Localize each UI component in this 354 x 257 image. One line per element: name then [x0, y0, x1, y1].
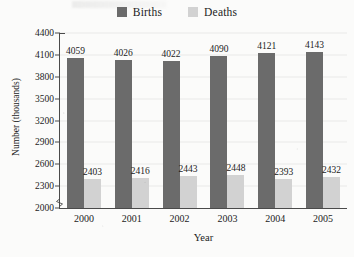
- chart-plot-area: Number (thousands) 200023002600290032003…: [0, 0, 354, 257]
- bar-value-label: 2448: [226, 163, 245, 173]
- y-axis-tick-label: 2300: [35, 181, 54, 191]
- x-axis-tick-labels: 200020012002200320042005: [60, 213, 347, 229]
- x-axis-tick-label: 2005: [313, 213, 333, 224]
- bar-group: 40902448: [210, 33, 244, 208]
- bar-group: 40592403: [67, 33, 101, 208]
- y-axis-tick-label: 2600: [35, 159, 54, 169]
- bar-births-2001: 4026: [115, 60, 132, 208]
- bar-births-2003: 4090: [210, 56, 227, 208]
- bar-deaths-2005: 2432: [323, 177, 340, 209]
- bar-deaths-2002: 2443: [180, 176, 197, 208]
- y-axis-tick-label: 3800: [35, 72, 54, 82]
- y-axis-title: Number (thousands): [11, 52, 21, 182]
- bar-group: 40222443: [163, 33, 197, 208]
- bar-value-label: 2403: [83, 167, 102, 177]
- bar-births-2000: 4059: [67, 58, 84, 208]
- y-axis-tick-label: 2900: [35, 137, 54, 147]
- y-axis-tick-label: 3200: [35, 116, 54, 126]
- bar-value-label: 4090: [209, 44, 228, 54]
- x-axis-tick-label: 2000: [74, 213, 94, 224]
- chart-bars: 4059240340262416402224434090244841212393…: [60, 33, 347, 208]
- bar-value-label: 2443: [179, 164, 198, 174]
- bar-value-label: 4121: [257, 41, 276, 51]
- bar-value-label: 2432: [322, 165, 341, 175]
- bar-births-2005: 4143: [306, 52, 323, 208]
- bar-value-label: 4026: [114, 48, 133, 58]
- x-axis-line: [59, 208, 347, 209]
- y-axis-tick-label: 4400: [35, 28, 54, 38]
- bar-deaths-2001: 2416: [132, 178, 149, 208]
- x-axis-tick-label: 2001: [122, 213, 142, 224]
- bar-deaths-2000: 2403: [84, 179, 101, 208]
- bar-value-label: 4022: [162, 49, 181, 59]
- x-axis-title: Year: [60, 232, 347, 243]
- bar-group: 40262416: [115, 33, 149, 208]
- y-axis-tick-label: 4100: [35, 50, 54, 60]
- bar-group: 41432432: [306, 33, 340, 208]
- y-axis-tick-label: 2000: [35, 203, 54, 213]
- bar-value-label: 2393: [274, 167, 293, 177]
- bar-value-label: 4143: [305, 40, 324, 50]
- x-axis-tick-label: 2002: [170, 213, 190, 224]
- bar-deaths-2003: 2448: [227, 175, 244, 208]
- y-axis-tick-label: 3500: [35, 94, 54, 104]
- bar-births-2004: 4121: [258, 53, 275, 208]
- x-axis-tick-label: 2004: [265, 213, 285, 224]
- bar-births-2002: 4022: [163, 61, 180, 208]
- x-axis-tick-label: 2003: [217, 213, 237, 224]
- bar-deaths-2004: 2393: [275, 179, 292, 208]
- bar-group: 41212393: [258, 33, 292, 208]
- bar-value-label: 2416: [131, 166, 150, 176]
- bar-value-label: 4059: [66, 46, 85, 56]
- y-axis-tick-labels: 200023002600290032003500380041004400: [22, 0, 54, 257]
